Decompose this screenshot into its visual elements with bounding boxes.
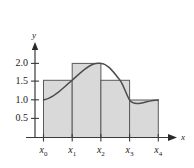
x-tick-label-x2: x2 <box>97 144 105 158</box>
y-tick-label-1-0: 1.0 <box>4 94 28 105</box>
approximation-rectangles <box>44 63 159 137</box>
riemann-sum-figure: y x 2.0 1.5 1.0 0.5 x0 x1 x2 x3 x4 <box>0 0 194 168</box>
x-tick-label-x1: x1 <box>68 144 76 158</box>
y-tick-label-1-5: 1.5 <box>4 75 28 86</box>
table-row <box>101 80 130 137</box>
x-axis-label: x <box>181 132 185 142</box>
x-tick-label-x0: x0 <box>40 144 48 158</box>
x-tick-subscript: 0 <box>44 150 48 158</box>
x-tick-subscript: 4 <box>159 150 163 158</box>
x-tick-subscript: 3 <box>130 150 134 158</box>
y-tick-label-0-5: 0.5 <box>4 112 28 123</box>
y-axis-arrow-icon <box>32 42 38 50</box>
table-row <box>130 100 159 138</box>
x-tick-label-x3: x3 <box>126 144 134 158</box>
x-tick-subscript: 1 <box>73 150 77 158</box>
chart-plot-area <box>0 0 194 168</box>
x-axis-arrow-icon <box>168 134 177 141</box>
y-axis-label: y <box>32 30 36 40</box>
table-row <box>44 80 73 137</box>
table-row <box>72 63 101 137</box>
x-tick-subscript: 2 <box>101 150 105 158</box>
x-tick-label-x4: x4 <box>154 144 162 158</box>
y-tick-label-2-0: 2.0 <box>4 57 28 68</box>
